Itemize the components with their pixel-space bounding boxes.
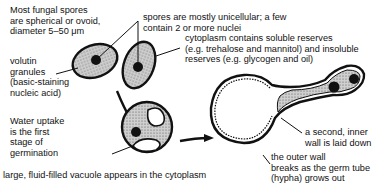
vacuole [148, 108, 165, 126]
label-water-uptake: Water uptake is the first stage of germi… [10, 116, 64, 158]
arrow-right-icon [180, 134, 214, 142]
label-vacuole: large, fluid-filled vacuole appears in t… [3, 170, 206, 181]
swollen-spore [122, 102, 172, 152]
label-volutin: volutin granules (basic-staining nucleic… [10, 56, 69, 98]
label-inner-wall: a second, inner wall is laid down [305, 127, 371, 148]
nucleus-icon [349, 74, 359, 84]
label-cytoplasm: cytoplasm contains soluble reserves (e.g… [185, 33, 359, 65]
nucleus-icon [329, 82, 340, 93]
label-nuclei: spores are mostly unicellular; a few con… [143, 12, 287, 33]
label-spore-shape: Most fungal spores are spherical or ovoi… [10, 5, 100, 37]
label-outer-wall: the outer wall breaks as the germ tube (… [271, 152, 370, 184]
spore-ovoid-2 [117, 37, 162, 92]
spore-ovoid-1 [68, 38, 122, 84]
nucleus-icon [131, 127, 141, 137]
